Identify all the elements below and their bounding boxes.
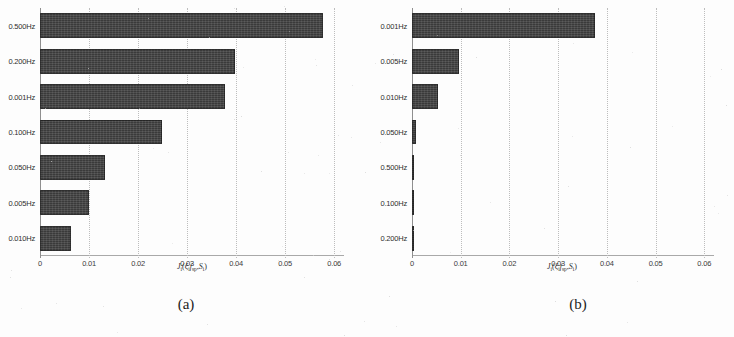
category-label: 0.500Hz [380,163,407,172]
category-label: 0.050Hz [8,163,35,172]
x-axis-title-a: Ji(ξifsp,Si) [177,262,207,272]
bar [412,84,438,109]
bar [40,190,89,215]
x-tick-label: 0.01 [82,259,96,268]
scan-speckle [566,335,567,336]
scan-speckle [284,6,285,7]
x-tick-label: 0.06 [697,259,711,268]
scan-speckle [413,230,414,231]
category-label: 0.010Hz [8,234,35,243]
bar [412,190,414,215]
scan-speckle [45,108,46,109]
category-label: 0.005Hz [8,198,35,207]
scan-speckle [490,202,491,203]
scan-speckle [117,332,118,333]
scan-speckle [318,155,319,156]
scan-speckle [148,18,149,19]
bar [40,120,162,145]
scan-speckle [11,270,12,271]
scan-speckle [261,171,262,172]
scan-speckle [710,76,711,77]
category-label: 0.200Hz [8,57,35,66]
scan-speckle [329,259,330,260]
scan-speckle [352,85,353,86]
bar-row: 0.010Hz [412,84,714,109]
scan-speckle [329,173,330,174]
scan-speckle [304,173,305,174]
scan-speckle [375,63,376,64]
scan-speckle [632,52,633,53]
scan-speckle [51,161,52,162]
scan-speckle [344,335,345,336]
x-axis-title-b: Ji(ξifsp,Si) [547,262,577,272]
scan-speckle [437,35,438,36]
category-label: 0.100Hz [380,198,407,207]
bar-row: 0.100Hz [40,120,344,145]
scan-speckle [364,321,365,322]
scan-speckle [172,243,173,244]
scan-speckle [351,137,352,138]
scan-speckle [289,31,290,32]
x-tick-label: 0.05 [278,259,292,268]
scan-speckle [672,126,673,127]
bar [40,84,225,109]
scan-speckle [727,195,728,196]
scan-speckle [714,206,715,207]
scan-speckle [460,155,461,156]
bar-row: 0.010Hz [40,226,344,251]
scan-speckle [396,326,397,327]
category-label: 0.050Hz [380,127,407,136]
bar [412,13,595,38]
scan-speckle [627,322,628,323]
bar [40,49,235,74]
bar [40,13,323,38]
scan-speckle [243,67,244,68]
scan-speckle [168,152,169,153]
scan-speckle [544,228,545,229]
bar [412,155,414,180]
scan-speckle [572,136,573,137]
scan-speckle [630,147,631,148]
scan-speckle [21,308,22,309]
scan-speckle [380,142,381,143]
x-tick-label: 0 [38,259,42,268]
x-tick-label: 0.04 [229,259,243,268]
scan-speckle [393,54,394,55]
category-label: 0.005Hz [380,57,407,66]
scan-speckle [721,69,722,70]
bars-a: 0.500Hz0.200Hz0.001Hz0.100Hz0.050Hz0.005… [40,8,344,256]
scan-speckle [389,296,390,297]
scan-speckle [207,324,208,325]
bar [412,120,416,145]
bar-row: 0.005Hz [40,190,344,215]
scan-speckle [10,277,11,278]
category-label: 0.001Hz [380,21,407,30]
x-tick-label: 0.02 [131,259,145,268]
bar-row: 0.050Hz [40,155,344,180]
scan-speckle [458,128,459,129]
subfigure-a: 0.500Hz0.200Hz0.001Hz0.100Hz0.050Hz0.005… [0,0,368,337]
bar-row: 0.500Hz [40,13,344,38]
scan-speckle [450,252,451,253]
caption-a: (a) [178,296,195,313]
scan-speckle [573,43,574,44]
scan-speckle [316,65,317,66]
scan-speckle [139,108,140,109]
scan-speckle [555,301,556,302]
scan-speckle [288,152,289,153]
bar-row: 0.200Hz [412,226,714,251]
bar-row: 0.100Hz [412,190,714,215]
scan-speckle [241,116,242,117]
scan-speckle [315,59,316,60]
bar-row: 0.005Hz [412,49,714,74]
scan-speckle [476,57,477,58]
scan-speckle [234,8,235,9]
category-label: 0.500Hz [8,21,35,30]
scan-speckle [234,119,235,120]
scan-speckle [278,260,279,261]
scan-speckle [56,303,57,304]
x-tick-label: 0.02 [503,259,517,268]
scan-speckle [637,281,638,282]
bar [40,155,105,180]
scan-speckle [103,306,104,307]
